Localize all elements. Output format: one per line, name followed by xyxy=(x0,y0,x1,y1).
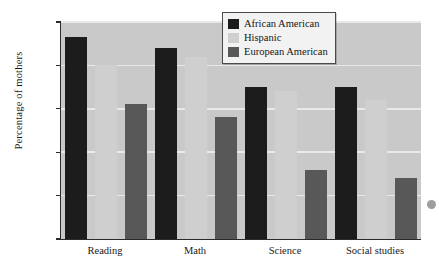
legend: African American Hispanic European Ameri… xyxy=(222,12,336,64)
bar xyxy=(185,57,207,239)
bar-chart: Percentage of mothers 020406080100 Readi… xyxy=(0,0,439,280)
y-axis-tick xyxy=(56,21,61,22)
y-axis-tick xyxy=(56,65,61,66)
x-axis-tick-label: Reading xyxy=(88,245,123,256)
legend-swatch-icon-african-american xyxy=(228,19,239,29)
y-axis-tick xyxy=(56,238,61,239)
bar xyxy=(245,87,267,239)
legend-item-african-american: African American xyxy=(228,17,328,30)
y-axis-tick xyxy=(56,108,61,109)
legend-label-european-american: European American xyxy=(244,46,328,57)
scan-artifact-dot xyxy=(427,200,436,209)
bar xyxy=(275,91,297,239)
bar xyxy=(305,170,327,239)
bar xyxy=(155,48,177,239)
y-axis-tick xyxy=(56,152,61,153)
legend-item-european-american: European American xyxy=(228,45,328,58)
x-axis-tick-label: Math xyxy=(184,245,206,256)
bar xyxy=(125,104,147,239)
bar xyxy=(65,37,87,239)
y-axis-tick xyxy=(56,195,61,196)
bar xyxy=(395,178,417,239)
bar xyxy=(335,87,357,239)
legend-item-hispanic: Hispanic xyxy=(228,31,328,44)
legend-label-african-american: African American xyxy=(244,18,320,29)
bar xyxy=(215,117,237,239)
x-axis-tick-label: Social studies xyxy=(346,245,404,256)
x-axis-tick-label: Science xyxy=(269,245,302,256)
y-axis-title: Percentage of mothers xyxy=(13,21,24,181)
legend-label-hispanic: Hispanic xyxy=(244,32,281,43)
bar xyxy=(365,100,387,239)
legend-swatch-icon-european-american xyxy=(228,47,239,57)
legend-swatch-icon-hispanic xyxy=(228,33,239,43)
bar xyxy=(95,65,117,239)
